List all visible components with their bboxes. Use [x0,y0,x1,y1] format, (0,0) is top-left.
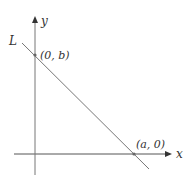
x-intercept-label: (a, 0) [136,138,165,151]
diagram-canvas: y x L (0, b) (a, 0) [0,0,194,184]
y-axis-label: y [40,14,48,28]
y-axis-arrow-icon [32,16,38,23]
point-x-intercept [132,152,135,155]
line-label: L [8,34,17,48]
y-axis [32,16,38,175]
point-y-intercept [33,53,36,56]
y-intercept-label: (0, b) [40,49,70,62]
x-axis-arrow-icon [165,151,172,157]
x-axis-label: x [176,147,183,161]
x-axis [14,151,172,157]
